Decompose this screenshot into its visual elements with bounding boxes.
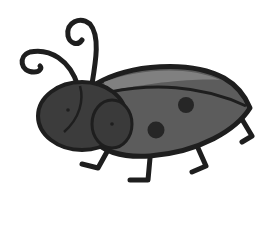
antennae [22,20,96,86]
spot-lower [148,122,165,139]
ladybug-svg [0,0,275,247]
leg-mid [130,158,150,180]
leg-rear [192,148,206,172]
antenna-left [22,51,78,86]
ladybug-illustration [0,0,275,247]
leg-front [82,150,108,168]
eye-left [66,108,70,112]
spot-upper [178,97,194,113]
eye-right [110,122,114,126]
